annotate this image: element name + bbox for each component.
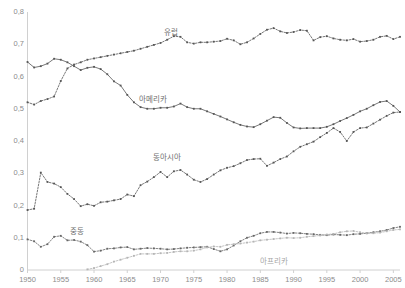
- data-point-marker: [286, 237, 288, 239]
- data-point-marker: [60, 80, 62, 82]
- data-point-marker: [80, 205, 82, 207]
- data-point-marker: [193, 250, 195, 252]
- data-point-marker: [27, 61, 29, 63]
- data-point-marker: [273, 27, 275, 29]
- data-point-marker: [279, 117, 281, 119]
- data-point-marker: [206, 41, 208, 43]
- data-point-marker: [299, 146, 301, 148]
- data-point-marker: [73, 239, 75, 241]
- data-point-marker: [120, 198, 122, 200]
- data-point-marker: [399, 36, 401, 38]
- data-point-marker: [153, 176, 155, 178]
- y-axis-tick-label: 0: [0, 265, 24, 274]
- data-point-marker: [259, 158, 261, 160]
- data-point-marker: [293, 150, 295, 152]
- data-point-marker: [160, 248, 162, 250]
- data-point-marker: [33, 104, 35, 106]
- data-point-marker: [239, 162, 241, 164]
- data-point-marker: [386, 100, 388, 102]
- y-axis-tick-label: 0,7: [0, 39, 24, 48]
- data-point-marker: [319, 136, 321, 138]
- data-point-marker: [47, 243, 49, 245]
- data-point-marker: [220, 246, 222, 248]
- data-point-marker: [126, 94, 128, 96]
- data-point-marker: [126, 257, 128, 259]
- data-point-marker: [399, 226, 401, 228]
- data-point-marker: [353, 233, 355, 235]
- data-point-marker: [299, 232, 301, 234]
- data-point-marker: [80, 61, 82, 63]
- data-point-marker: [106, 263, 108, 265]
- data-point-marker: [286, 122, 288, 124]
- data-point-marker: [180, 250, 182, 252]
- data-point-marker: [86, 59, 88, 61]
- data-point-marker: [146, 181, 148, 183]
- data-point-marker: [133, 101, 135, 103]
- data-point-marker: [359, 233, 361, 235]
- data-point-marker: [153, 253, 155, 255]
- data-point-marker: [213, 246, 215, 248]
- data-point-marker: [153, 44, 155, 46]
- data-point-marker: [100, 56, 102, 58]
- data-point-marker: [206, 110, 208, 112]
- data-point-marker: [266, 231, 268, 233]
- data-point-marker: [213, 248, 215, 250]
- data-point-marker: [140, 253, 142, 255]
- data-point-marker: [346, 117, 348, 119]
- data-point-marker: [372, 104, 374, 106]
- data-point-marker: [60, 59, 62, 61]
- data-point-marker: [86, 244, 88, 246]
- data-point-marker: [173, 248, 175, 250]
- data-point-marker: [293, 31, 295, 33]
- data-point-marker: [299, 128, 301, 130]
- y-axis-tick-label: 0,5: [0, 104, 24, 113]
- data-point-marker: [146, 46, 148, 48]
- data-point-marker: [166, 39, 168, 41]
- data-point-marker: [60, 235, 62, 237]
- x-axis-tick-label: 1980: [212, 275, 242, 284]
- data-point-marker: [100, 68, 102, 70]
- data-point-marker: [386, 115, 388, 117]
- data-point-marker: [246, 242, 248, 244]
- data-point-marker: [379, 36, 381, 38]
- data-point-marker: [253, 235, 255, 237]
- data-point-marker: [392, 105, 394, 107]
- data-point-marker: [326, 126, 328, 128]
- data-point-marker: [120, 85, 122, 87]
- data-point-marker: [246, 237, 248, 239]
- data-point-marker: [126, 246, 128, 248]
- data-point-marker: [306, 30, 308, 32]
- data-point-marker: [160, 107, 162, 109]
- data-point-marker: [333, 233, 335, 235]
- data-point-marker: [313, 39, 315, 41]
- series-label-middle-east: 중동: [70, 225, 84, 236]
- data-point-marker: [213, 113, 215, 115]
- data-point-marker: [206, 178, 208, 180]
- data-point-marker: [392, 227, 394, 229]
- data-point-marker: [299, 29, 301, 31]
- data-point-marker: [306, 143, 308, 145]
- data-point-marker: [106, 248, 108, 250]
- y-axis-tick-label: 0,6: [0, 72, 24, 81]
- data-point-marker: [113, 199, 115, 201]
- x-axis-tick-label: 1995: [312, 275, 342, 284]
- data-point-marker: [220, 169, 222, 171]
- data-point-marker: [366, 127, 368, 129]
- data-point-marker: [193, 43, 195, 45]
- data-point-marker: [346, 140, 348, 142]
- data-point-marker: [359, 41, 361, 43]
- data-point-marker: [67, 239, 69, 241]
- data-point-marker: [319, 127, 321, 129]
- data-point-marker: [366, 232, 368, 234]
- data-point-marker: [353, 114, 355, 116]
- data-point-marker: [346, 234, 348, 236]
- data-point-marker: [379, 101, 381, 103]
- data-point-marker: [160, 171, 162, 173]
- data-point-marker: [67, 193, 69, 195]
- data-point-marker: [353, 131, 355, 133]
- data-point-marker: [339, 120, 341, 122]
- data-point-marker: [80, 241, 82, 243]
- data-point-marker: [133, 195, 135, 197]
- data-point-marker: [306, 127, 308, 129]
- data-point-marker: [40, 246, 42, 248]
